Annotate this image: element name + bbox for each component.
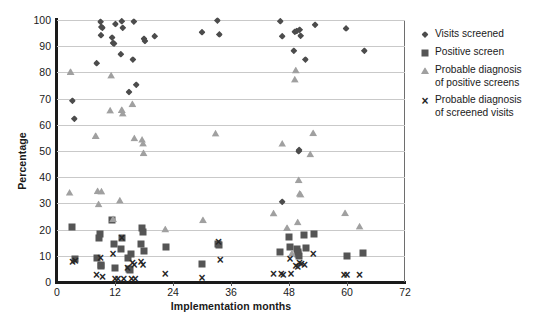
data-point — [297, 259, 306, 268]
data-point — [97, 32, 104, 39]
data-point — [139, 140, 147, 147]
gridline-y-20 — [57, 230, 405, 231]
data-point — [303, 245, 310, 252]
data-point — [118, 18, 125, 25]
chart-legend: Visits screenedPositive screenProbable d… — [418, 28, 546, 124]
x-tick-label-36: 36 — [216, 286, 246, 298]
data-point — [98, 24, 105, 31]
legend-item-label: Visits screened — [435, 28, 504, 41]
data-point — [309, 129, 317, 136]
data-point — [97, 188, 105, 195]
data-point — [214, 238, 223, 247]
square-icon — [418, 46, 432, 59]
legend-item-2: Probable diagnosis of positive screens — [418, 64, 546, 89]
data-point — [109, 216, 116, 223]
data-point — [294, 248, 301, 255]
legend-item-label: Probable diagnosis of screened visits — [435, 94, 522, 119]
plot-area — [57, 20, 405, 282]
data-point — [270, 210, 278, 217]
data-point — [106, 107, 114, 114]
data-point — [92, 270, 101, 279]
data-point — [277, 18, 284, 25]
data-point — [127, 274, 136, 283]
data-point — [119, 274, 128, 283]
data-point — [141, 37, 148, 44]
data-point — [199, 29, 206, 36]
x-tick-label-60: 60 — [332, 286, 362, 298]
data-point — [118, 106, 126, 113]
data-point — [137, 257, 146, 266]
y-tick-label-100: 100 — [25, 14, 51, 26]
y-axis-tick-labels: 0102030405060708090100 — [22, 20, 51, 282]
data-point — [117, 51, 124, 58]
data-point — [111, 240, 118, 247]
data-point — [71, 115, 78, 122]
data-point — [311, 230, 318, 237]
data-point — [138, 241, 145, 248]
data-point — [216, 31, 223, 38]
data-point — [130, 134, 138, 141]
scatter-chart: Percentage 0102030405060708090100 012243… — [0, 0, 548, 322]
data-point — [96, 253, 105, 262]
data-point — [302, 56, 309, 63]
data-point — [66, 189, 74, 196]
x-tick-label-48: 48 — [274, 286, 304, 298]
data-point — [290, 47, 297, 54]
data-point — [126, 267, 133, 274]
y-tick-label-10: 10 — [25, 250, 51, 262]
x-tick-mark-60 — [347, 282, 348, 286]
y-tick-label-90: 90 — [25, 40, 51, 52]
gridline-y-10 — [57, 256, 405, 257]
gridline-y-100 — [57, 20, 405, 21]
x-tick-mark-36 — [231, 282, 232, 286]
data-point — [125, 266, 132, 273]
gridline-y-60 — [57, 125, 405, 126]
data-point — [112, 265, 119, 272]
data-point — [216, 255, 225, 264]
x-tick-label-12: 12 — [100, 286, 130, 298]
data-point — [278, 140, 286, 147]
data-point — [131, 274, 140, 283]
data-point — [286, 270, 295, 279]
data-point — [92, 132, 100, 139]
data-point — [161, 270, 170, 279]
data-point — [216, 242, 223, 249]
data-point — [279, 33, 286, 40]
data-point — [119, 110, 127, 117]
data-point — [277, 248, 284, 255]
data-point — [361, 47, 368, 54]
data-point — [96, 230, 103, 237]
data-point — [71, 257, 80, 266]
data-point — [277, 270, 286, 279]
data-point — [291, 28, 298, 35]
data-point — [129, 56, 136, 63]
gridline-y-70 — [57, 99, 405, 100]
data-point — [112, 20, 119, 27]
data-point — [130, 261, 139, 270]
x-icon — [418, 94, 432, 107]
data-point — [139, 260, 148, 269]
x-tick-mark-24 — [173, 282, 174, 286]
legend-item-0: Visits screened — [418, 28, 546, 41]
data-point — [95, 234, 102, 241]
y-tick-label-20: 20 — [25, 224, 51, 236]
data-point — [138, 136, 146, 143]
data-point — [94, 187, 102, 194]
data-point — [343, 270, 352, 279]
x-tick-label-72: 72 — [390, 286, 420, 298]
data-point — [295, 258, 304, 267]
data-point — [279, 270, 288, 279]
legend-item-1: Positive screen — [418, 46, 546, 59]
x-tick-label-24: 24 — [158, 286, 188, 298]
data-point — [309, 249, 318, 258]
y-tick-label-60: 60 — [25, 119, 51, 131]
data-point — [141, 247, 148, 254]
data-point — [340, 270, 349, 279]
data-point — [293, 28, 300, 35]
data-point — [141, 35, 148, 42]
data-point — [133, 81, 140, 88]
data-point — [296, 146, 303, 153]
data-point — [99, 24, 106, 31]
data-point — [98, 262, 105, 269]
x-axis-title: Implementation months — [57, 300, 405, 312]
